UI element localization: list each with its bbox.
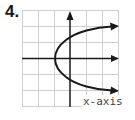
x-axis-label: x-axis — [82, 95, 124, 108]
y-axis-arrow-icon — [67, 11, 74, 20]
x-axis-arrow-icon — [111, 55, 119, 62]
lower-branch-arrow-icon — [110, 87, 119, 95]
upper-branch-arrow-icon — [110, 23, 119, 31]
axes — [22, 11, 119, 107]
